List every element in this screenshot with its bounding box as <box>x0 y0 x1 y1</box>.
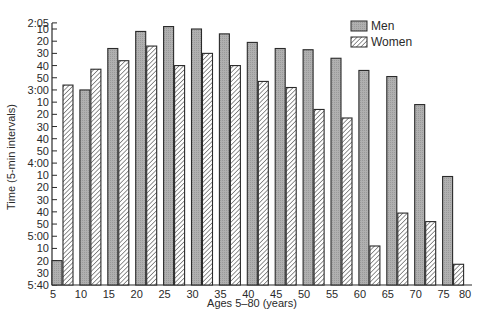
y-tick-label: 5:40 <box>28 279 49 291</box>
bar-men-age-65 <box>387 77 397 285</box>
y-tick-label: 30 <box>37 121 49 133</box>
legend-label-men: Men <box>371 19 394 33</box>
y-tick-label: 4:00 <box>28 157 49 169</box>
y-tick-label: 20 <box>37 35 49 47</box>
bar-women-age-75 <box>454 264 464 285</box>
x-tick-label: 55 <box>326 288 338 300</box>
x-tick-label: 80 <box>459 288 471 300</box>
y-tick-label: 3:00 <box>28 84 49 96</box>
y-tick-label: 30 <box>37 267 49 279</box>
y-axis-title: Time (5-min intervals) <box>5 104 17 210</box>
y-tick-label: 50 <box>37 145 49 157</box>
bar-women-age-10 <box>91 69 101 285</box>
x-tick-label: 75 <box>437 288 449 300</box>
x-tick-label: 50 <box>298 288 310 300</box>
race-time-bar-chart: 2:0510203040503:0010203040504:0010203040… <box>0 0 483 317</box>
bar-women-age-70 <box>426 222 436 285</box>
y-tick-label: 10 <box>37 242 49 254</box>
y-tick-label: 10 <box>37 169 49 181</box>
bar-men-age-55 <box>331 58 341 285</box>
bar-women-age-15 <box>119 61 129 285</box>
bar-men-age-40 <box>247 42 257 285</box>
bar-women-age-65 <box>398 213 408 285</box>
legend: Men Women <box>351 19 412 49</box>
y-tick-label: 40 <box>37 206 49 218</box>
bar-men-age-5 <box>52 261 62 285</box>
legend-label-women: Women <box>371 35 412 49</box>
bar-women-age-40 <box>258 81 268 285</box>
x-tick-label: 25 <box>158 288 170 300</box>
y-tick-label: 50 <box>37 218 49 230</box>
y-tick-label: 40 <box>37 60 49 72</box>
bar-men-age-50 <box>303 50 313 285</box>
y-tick-label: 20 <box>37 108 49 120</box>
bar-women-age-35 <box>230 66 240 285</box>
y-tick-label: 20 <box>37 181 49 193</box>
x-tick-label: 15 <box>103 288 115 300</box>
bar-men-age-25 <box>164 27 174 285</box>
bar-men-age-30 <box>192 29 202 285</box>
y-tick-label: 5:00 <box>28 230 49 242</box>
bar-men-age-75 <box>443 177 453 285</box>
bar-men-age-10 <box>80 90 90 285</box>
y-tick-label: 40 <box>37 133 49 145</box>
x-tick-label: 20 <box>131 288 143 300</box>
bar-women-age-55 <box>342 118 352 285</box>
y-tick-label: 30 <box>37 47 49 59</box>
x-tick-label: 65 <box>382 288 394 300</box>
bar-women-age-45 <box>286 88 296 285</box>
y-tick-label: 10 <box>37 23 49 35</box>
y-tick-label: 10 <box>37 96 49 108</box>
x-tick-label: 60 <box>354 288 366 300</box>
legend-swatch-men <box>351 21 367 31</box>
bar-women-age-25 <box>175 66 185 285</box>
x-tick-label: 5 <box>50 288 56 300</box>
bar-women-age-60 <box>370 246 380 285</box>
bars <box>52 27 464 285</box>
x-tick-label: 30 <box>186 288 198 300</box>
bar-men-age-45 <box>275 49 285 285</box>
bar-women-age-50 <box>314 109 324 285</box>
bar-men-age-20 <box>136 31 146 285</box>
bar-women-age-20 <box>147 46 157 285</box>
legend-swatch-women <box>351 37 367 47</box>
x-axis-title: Ages 5–80 (years) <box>207 297 297 309</box>
y-tick-label: 50 <box>37 72 49 84</box>
bar-men-age-35 <box>219 34 229 285</box>
y-tick-label: 30 <box>37 194 49 206</box>
x-tick-label: 70 <box>410 288 422 300</box>
x-tick-label: 10 <box>75 288 87 300</box>
bar-men-age-15 <box>108 49 118 285</box>
y-axis: 2:0510203040503:0010203040504:0010203040… <box>28 17 57 291</box>
bar-men-age-70 <box>415 105 425 285</box>
bar-women-age-30 <box>203 53 213 285</box>
bar-men-age-60 <box>359 70 369 285</box>
bar-women-age-5 <box>63 85 73 285</box>
y-tick-label: 20 <box>37 255 49 267</box>
